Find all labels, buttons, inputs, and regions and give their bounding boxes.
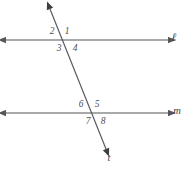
angle-label-6: 6 [79, 100, 84, 110]
line-label-l: ℓ [172, 32, 177, 44]
angle-label-8: 8 [101, 117, 106, 127]
angle-label-3: 3 [57, 44, 62, 54]
line-t-transversal [50, 9, 106, 149]
geometry-figure: 1 2 3 4 5 6 7 8 ℓ m t [0, 0, 192, 170]
angle-label-4: 4 [73, 44, 78, 54]
angle-label-1: 1 [65, 27, 70, 37]
angle-label-2: 2 [50, 27, 55, 37]
angle-label-5: 5 [95, 100, 100, 110]
line-label-m: m [173, 106, 181, 117]
angle-label-7: 7 [86, 117, 91, 127]
figure-canvas [0, 0, 192, 170]
line-label-t: t [108, 153, 111, 164]
